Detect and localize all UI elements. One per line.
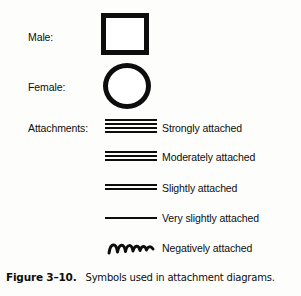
slightly-attached-lines-symbol xyxy=(105,183,157,191)
label-female: Female: xyxy=(28,82,65,93)
figure-caption-label: Figure 3–10. xyxy=(6,271,76,283)
negatively-attached-wave-symbol xyxy=(107,240,157,256)
attachment-line xyxy=(105,151,157,153)
attachment-line xyxy=(105,217,157,219)
attachment-line xyxy=(105,119,157,121)
description-strongly-attached: Strongly attached xyxy=(162,123,242,134)
attachment-line xyxy=(105,188,157,190)
moderately-attached-lines-symbol xyxy=(105,150,157,162)
attachment-line xyxy=(105,123,157,125)
very-slightly-attached-line-symbol xyxy=(105,216,157,219)
description-negatively-attached: Negatively attached xyxy=(162,243,252,254)
label-attachments: Attachments: xyxy=(28,123,88,134)
description-slightly-attached: Slightly attached xyxy=(162,183,237,194)
figure-caption: Figure 3–10.Symbols used in attachment d… xyxy=(6,272,298,284)
male-square-symbol xyxy=(101,13,149,55)
female-circle-symbol xyxy=(103,63,151,109)
description-moderately-attached: Moderately attached xyxy=(162,152,255,163)
strongly-attached-lines-symbol xyxy=(105,118,157,134)
attachment-line xyxy=(105,131,157,133)
attachment-line xyxy=(105,159,157,161)
figure-caption-text: Symbols used in attachment diagrams. xyxy=(85,272,274,283)
attachment-line xyxy=(105,184,157,186)
attachment-line xyxy=(105,155,157,157)
label-male: Male: xyxy=(28,32,53,43)
attachment-line xyxy=(105,127,157,129)
description-very-slightly-attached: Very slightly attached xyxy=(162,213,259,224)
figure-3-10: Male: Female: Attachments: Strongly atta… xyxy=(0,0,301,296)
